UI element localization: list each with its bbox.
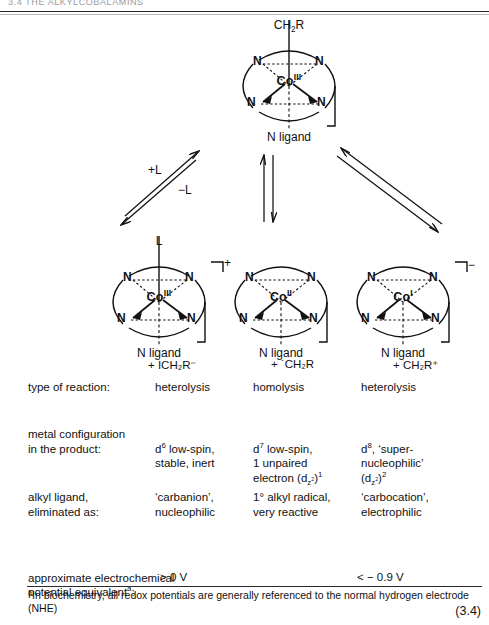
n-donor-label: N bbox=[117, 311, 126, 325]
complex-product-cobalt-iii: L CoI bbox=[93, 250, 225, 358]
footnote: aIn biochemistry, all redox potentials a… bbox=[28, 589, 489, 615]
metal-center-p3: CoI bbox=[337, 290, 469, 304]
row-label-type-of-reaction: type of reaction: bbox=[28, 380, 110, 395]
cell-type-2: homolysis bbox=[253, 380, 304, 395]
leaving-group-2: + ˙CH₂R bbox=[271, 358, 314, 370]
n-donor-label: N bbox=[247, 95, 256, 109]
complex-parent-alkylcobalamin: CH2R Co bbox=[223, 34, 355, 142]
n-donor-label: N bbox=[309, 311, 318, 325]
arrow-label-reverse: −L bbox=[178, 183, 192, 197]
n-donor-label: N bbox=[361, 311, 370, 325]
cell-config-1: d6 low-spin,stable, inert bbox=[155, 427, 214, 471]
corrin-ring-p3 bbox=[337, 250, 469, 358]
n-donor-label: N bbox=[123, 270, 132, 284]
metal-center-p1: CoIII bbox=[93, 290, 225, 304]
cell-type-3: heterolysis bbox=[361, 380, 416, 395]
leaving-group-1: + ICH₂R⁻ bbox=[148, 358, 197, 372]
n-donor-label: N bbox=[239, 311, 248, 325]
cell-potential-1: > 0 V bbox=[160, 570, 187, 585]
n-donor-label: N bbox=[429, 270, 438, 284]
complex-product-cobalt-ii: CoII N N N N N ligand bbox=[215, 250, 347, 358]
cell-alkyl-2: 1° alkyl radical, very reactive bbox=[253, 490, 330, 519]
row-label-metal-configuration: metal configuration in the product: bbox=[28, 427, 125, 456]
metal-center-parent: CoIII bbox=[223, 74, 355, 88]
cell-alkyl-1: ‘carbanion’, nucleophilic bbox=[155, 490, 215, 519]
n-donor-label: N bbox=[367, 270, 376, 284]
axial-bottom-label-parent: N ligand bbox=[223, 130, 355, 144]
equation-number: (3.4) bbox=[455, 604, 481, 618]
corrin-ring-p1 bbox=[93, 250, 225, 358]
cell-config-2: d7 low-spin,1 unpairedelectron (dz2)1 bbox=[253, 427, 322, 485]
n-donor-label: N bbox=[185, 270, 194, 284]
arrow-label-forward: +L bbox=[148, 163, 162, 177]
n-donor-label: N bbox=[253, 54, 262, 68]
footnote-rule bbox=[27, 586, 482, 587]
n-donor-label: N bbox=[187, 311, 196, 325]
cell-type-1: heterolysis bbox=[155, 380, 210, 395]
cell-config-3: d8, ‘super-nucleophilic’(dz2)2 bbox=[361, 427, 424, 485]
header-rule-secondary bbox=[0, 14, 489, 15]
cell-potential-3: < − 0.9 V bbox=[357, 570, 404, 585]
metal-center-p2: CoII bbox=[215, 290, 347, 304]
cell-alkyl-3: ‘carbocation’, electrophilic bbox=[361, 490, 429, 519]
figure-page: 3.4 THE ALKYLCOBALAMINS CH2R bbox=[0, 0, 489, 625]
n-donor-label: N bbox=[317, 95, 326, 109]
charge-label-p3: − bbox=[468, 258, 475, 272]
row-label-alkyl-ligand: alkyl ligand, eliminated as: bbox=[28, 490, 99, 519]
n-donor-label: N bbox=[245, 270, 254, 284]
n-donor-label: N bbox=[315, 54, 324, 68]
n-donor-label: N bbox=[307, 270, 316, 284]
n-donor-label: N bbox=[431, 311, 440, 325]
leaving-group-3: + CH₂R⁺ bbox=[393, 358, 438, 372]
header-rule bbox=[0, 11, 489, 12]
running-head: 3.4 THE ALKYLCOBALAMINS bbox=[8, 0, 338, 9]
corrin-ring-parent bbox=[223, 34, 355, 142]
complex-product-cobalt-i: CoI N N N N − N ligand bbox=[337, 250, 469, 358]
corrin-ring-p2 bbox=[215, 250, 347, 358]
